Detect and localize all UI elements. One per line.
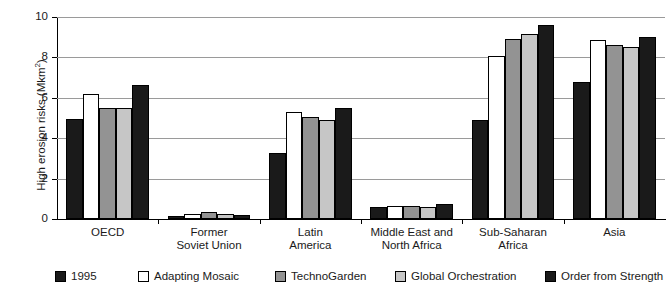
legend-swatch-icon: [275, 271, 286, 282]
bar: [302, 117, 319, 219]
bar: [623, 47, 640, 219]
gridline: [57, 57, 665, 58]
x-category-label-line: North Africa: [361, 239, 462, 252]
bar: [521, 34, 538, 219]
bar: [387, 206, 404, 219]
legend-swatch-icon: [55, 271, 66, 282]
x-category-label-line: OECD: [57, 226, 158, 239]
chart-legend: 1995Adapting MosaicTechnoGardenGlobal Or…: [0, 271, 672, 293]
legend-item[interactable]: 1995: [55, 271, 97, 283]
y-tick-label: 6: [18, 92, 48, 104]
x-category-label: LatinAmerica: [260, 226, 361, 252]
x-tick-mark: [462, 220, 463, 224]
x-category-label: Asia: [564, 226, 665, 239]
bar: [436, 204, 453, 219]
bar: [66, 119, 83, 219]
bar: [184, 214, 201, 219]
bar: [234, 215, 251, 219]
bar: [99, 108, 116, 219]
bar: [639, 37, 656, 219]
legend-label: Global Orchestration: [411, 271, 516, 283]
bar: [505, 39, 522, 219]
bar: [590, 40, 607, 219]
bar: [132, 85, 149, 219]
x-tick-mark: [260, 220, 261, 224]
bar: [335, 108, 352, 219]
legend-swatch-icon: [545, 271, 556, 282]
x-category-label: Middle East andNorth Africa: [361, 226, 462, 252]
x-category-label-line: America: [260, 239, 361, 252]
x-category-label: FormerSoviet Union: [158, 226, 259, 252]
y-tick-label: 0: [18, 213, 48, 225]
bar: [370, 207, 387, 219]
x-tick-mark: [158, 220, 159, 224]
x-category-label-line: Middle East and: [361, 226, 462, 239]
legend-label: Order from Strength: [561, 271, 663, 283]
x-tick-mark: [564, 220, 565, 224]
bar: [217, 214, 234, 219]
y-tick-label: 8: [18, 51, 48, 63]
legend-swatch-icon: [395, 271, 406, 282]
x-category-label-line: Africa: [462, 239, 563, 252]
legend-item[interactable]: Order from Strength: [545, 271, 663, 283]
x-category-label: OECD: [57, 226, 158, 239]
bar: [286, 112, 303, 219]
gridline: [57, 17, 665, 18]
bar: [606, 45, 623, 219]
x-category-label-line: Sub-Saharan: [462, 226, 563, 239]
bar: [168, 216, 185, 219]
bar: [201, 212, 218, 219]
bar: [488, 56, 505, 219]
x-category-label-line: Latin: [260, 226, 361, 239]
legend-label: Adapting Mosaic: [154, 271, 239, 283]
legend-label: 1995: [71, 271, 97, 283]
bar: [116, 108, 133, 219]
plot-area: [57, 17, 665, 219]
x-category-label-line: Asia: [564, 226, 665, 239]
legend-item[interactable]: Global Orchestration: [395, 271, 516, 283]
y-tick-label: 4: [18, 132, 48, 144]
y-tick-label: 10: [18, 11, 48, 23]
y-axis-title-superscript: 2: [33, 63, 42, 67]
y-tick-label: 2: [18, 173, 48, 185]
x-category-label: Sub-SaharanAfrica: [462, 226, 563, 252]
legend-swatch-icon: [138, 271, 149, 282]
bar: [269, 153, 286, 219]
bar: [538, 25, 555, 219]
bar: [319, 120, 336, 219]
x-category-label-line: Soviet Union: [158, 239, 259, 252]
bar: [403, 206, 420, 219]
bar: [472, 120, 489, 219]
x-category-label-line: Former: [158, 226, 259, 239]
bar-chart: High erosion risks (Mkm2) 0246810 OECDFo…: [0, 0, 672, 301]
x-tick-mark: [361, 220, 362, 224]
bar: [83, 94, 100, 219]
legend-item[interactable]: Adapting Mosaic: [138, 271, 239, 283]
bar: [420, 207, 437, 219]
legend-label: TechnoGarden: [291, 271, 366, 283]
bar: [573, 82, 590, 219]
legend-item[interactable]: TechnoGarden: [275, 271, 366, 283]
